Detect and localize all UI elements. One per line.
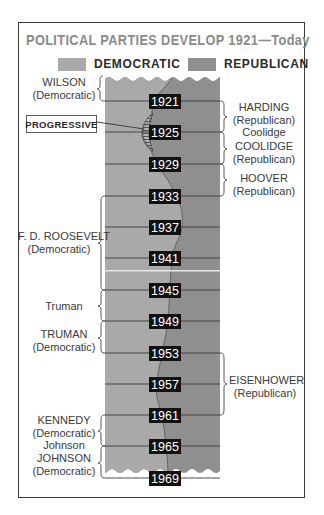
year-label-1949: 1949 xyxy=(149,314,181,329)
left-brackets xyxy=(97,76,105,478)
president-name: KENNEDY xyxy=(30,414,98,427)
year-label-1953: 1953 xyxy=(149,346,181,361)
president-party: (Democratic) xyxy=(30,89,98,102)
president-name: WILSON xyxy=(30,76,98,89)
successor-note: Coolidge xyxy=(232,126,296,139)
label-coolidge: COOLIDGE (Republican) xyxy=(232,140,296,165)
svg-text:1965: 1965 xyxy=(151,440,179,454)
president-name: COOLIDGE xyxy=(232,140,296,153)
svg-text:1941: 1941 xyxy=(151,252,179,266)
right-brackets xyxy=(220,101,227,415)
label-eisenhower: EISENHOWER (Republican) xyxy=(229,374,301,399)
president-party: (Republican) xyxy=(232,114,296,127)
label-truman-succession: Truman xyxy=(30,300,98,313)
svg-text:1949: 1949 xyxy=(151,315,179,329)
president-name: JOHNSON xyxy=(30,452,98,465)
year-label-1945: 1945 xyxy=(149,283,181,298)
year-label-1921: 1921 xyxy=(149,94,181,109)
progressive-label: PROGRESSIVE xyxy=(26,115,97,133)
year-label-1965: 1965 xyxy=(149,439,181,454)
svg-text:1969: 1969 xyxy=(151,472,179,486)
president-name: HOOVER xyxy=(232,172,296,185)
year-label-1929: 1929 xyxy=(149,157,181,172)
label-wilson: WILSON (Democratic) xyxy=(30,76,98,101)
year-label-1969: 1969 xyxy=(149,471,181,486)
svg-text:1945: 1945 xyxy=(151,284,179,298)
year-label-1941: 1941 xyxy=(149,251,181,266)
year-label-1957: 1957 xyxy=(149,377,181,392)
president-party: (Democratic) xyxy=(30,341,98,354)
president-party: (Democratic) xyxy=(30,465,98,478)
president-party: (Republican) xyxy=(232,153,296,166)
president-name: EISENHOWER xyxy=(229,374,301,387)
label-hoover: HOOVER (Republican) xyxy=(232,172,296,197)
president-party: (Republican) xyxy=(232,185,296,198)
president-party: (Republican) xyxy=(229,387,301,400)
year-label-1933: 1933 xyxy=(149,189,181,204)
label-truman: TRUMAN (Democratic) xyxy=(30,328,98,353)
successor-note: Johnson xyxy=(30,439,98,452)
president-name: Truman xyxy=(30,300,98,313)
svg-text:1921: 1921 xyxy=(151,95,179,109)
label-fd-roosevelt: F. D. ROOSEVELT (Democratic) xyxy=(18,230,100,255)
president-name: TRUMAN xyxy=(30,328,98,341)
svg-text:1937: 1937 xyxy=(151,221,179,235)
svg-text:1925: 1925 xyxy=(151,126,179,140)
label-johnson: JOHNSON (Democratic) xyxy=(30,452,98,477)
president-party: (Democratic) xyxy=(30,427,98,440)
label-harding: HARDING (Republican) Coolidge xyxy=(232,101,296,139)
svg-text:1929: 1929 xyxy=(151,158,179,172)
label-kennedy: KENNEDY (Democratic) Johnson xyxy=(30,414,98,452)
year-label-1961: 1961 xyxy=(149,408,181,423)
svg-text:1953: 1953 xyxy=(151,347,179,361)
year-label-1937: 1937 xyxy=(149,220,181,235)
svg-text:1961: 1961 xyxy=(151,409,179,423)
svg-text:1957: 1957 xyxy=(151,378,179,392)
president-name: HARDING xyxy=(232,101,296,114)
svg-text:1933: 1933 xyxy=(151,190,179,204)
president-name: F. D. ROOSEVELT xyxy=(18,230,100,243)
president-party: (Democratic) xyxy=(18,243,100,256)
year-label-1925: 1925 xyxy=(149,125,181,140)
